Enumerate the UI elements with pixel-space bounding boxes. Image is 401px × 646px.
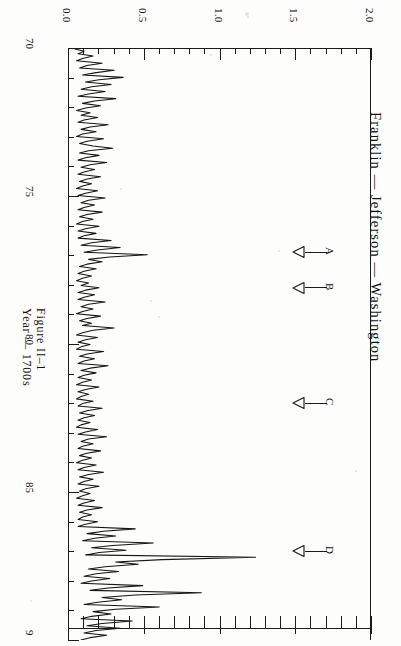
year-axis-tick-label: 75 (24, 186, 36, 197)
value-tick (189, 48, 190, 54)
value-tick (220, 48, 221, 60)
value-axis-tick-label: 1.5 (288, 8, 300, 22)
value-tick-bottom (204, 616, 205, 628)
value-tick (265, 48, 266, 54)
year-tick (68, 137, 74, 138)
value-tick-bottom (83, 616, 84, 628)
series-line (75, 49, 256, 640)
year-axis-tick-label: 9 (24, 630, 36, 636)
value-tick (159, 48, 160, 54)
year-tick (68, 640, 79, 641)
year-tick (68, 285, 74, 286)
value-tick-bottom (114, 616, 115, 628)
scan-speck (120, 188, 122, 190)
arrow-head-icon (292, 396, 305, 410)
value-tick (144, 48, 145, 60)
figure-caption: Figure II–1 (33, 308, 48, 371)
value-tick-bottom (310, 616, 311, 628)
value-tick (250, 48, 251, 54)
value-tick (98, 48, 99, 54)
year-tick (68, 255, 74, 256)
value-tick-bottom (235, 616, 236, 628)
annotation-label-d: D (324, 546, 336, 554)
value-tick-bottom (341, 616, 342, 628)
value-tick-bottom (159, 616, 160, 628)
annotation-arrow-d (292, 544, 327, 558)
value-tick (295, 48, 296, 60)
value-tick (129, 48, 130, 54)
value-tick-bottom (189, 616, 190, 628)
value-tick (356, 48, 357, 54)
value-tick (310, 48, 311, 54)
value-tick (114, 48, 115, 54)
year-tick (68, 551, 74, 552)
chart-title: Franklin — Jefferson — Washington (367, 112, 384, 362)
year-tick (68, 78, 74, 79)
value-tick-bottom (144, 616, 145, 634)
annotation-arrow-a (292, 245, 327, 259)
annotation-label-b: B (324, 283, 336, 290)
year-tick (68, 48, 79, 49)
value-tick-bottom (174, 616, 175, 628)
year-tick (68, 581, 74, 582)
value-tick-bottom (295, 616, 296, 634)
year-tick (68, 166, 74, 167)
value-tick-bottom (356, 616, 357, 628)
arrow-head-icon (292, 544, 305, 558)
value-axis-tick-label: 0.0 (61, 8, 73, 22)
annotation-label-c: C (324, 398, 336, 405)
annotation-label-a: A (324, 247, 336, 255)
year-tick (68, 226, 74, 227)
arrow-head-icon (292, 281, 305, 295)
year-tick (68, 522, 74, 523)
year-tick (68, 196, 79, 197)
value-tick-bottom (280, 616, 281, 628)
value-tick (174, 48, 175, 54)
year-tick (68, 374, 74, 375)
figure-scan-page: 0.00.51.01.52.0 707580859 ABCD Franklin … (0, 0, 401, 646)
value-tick (235, 48, 236, 54)
scan-speck (150, 300, 152, 302)
year-tick (68, 314, 74, 315)
year-tick (68, 433, 74, 434)
scan-speck (30, 600, 32, 602)
scan-speck (278, 250, 280, 252)
value-tick-bottom (98, 616, 99, 628)
year-tick (68, 403, 74, 404)
value-tick-bottom (68, 616, 69, 634)
year-tick (68, 610, 74, 611)
scan-speck (247, 16, 249, 18)
arrow-head-icon (292, 245, 305, 259)
value-tick-bottom (326, 616, 327, 628)
value-tick (326, 48, 327, 54)
year-axis-tick-label: 85 (24, 482, 36, 493)
year-tick (68, 462, 74, 463)
scan-speck (92, 430, 94, 432)
year-tick (68, 107, 74, 108)
year-axis-tick-label: 70 (24, 38, 36, 49)
value-tick (204, 48, 205, 54)
value-axis-tick-label: 2.0 (364, 8, 376, 22)
value-tick-bottom (250, 616, 251, 628)
value-axis-tick-label: 1.0 (213, 8, 225, 22)
value-tick (83, 48, 84, 54)
annotation-arrow-c (292, 396, 327, 410)
value-tick-bottom (129, 616, 130, 628)
value-tick (68, 48, 69, 60)
value-tick (371, 48, 372, 60)
annotation-arrow-b (292, 281, 327, 295)
scan-speck (158, 316, 160, 318)
x-axis-title: Year — 1700s (19, 308, 34, 386)
value-tick-bottom (220, 616, 221, 634)
value-tick (341, 48, 342, 54)
value-tick (280, 48, 281, 54)
year-tick (68, 492, 79, 493)
scan-speck (210, 54, 212, 56)
year-tick (68, 344, 79, 345)
scan-speck (355, 470, 357, 472)
value-axis-tick-label: 0.5 (137, 8, 149, 22)
value-tick-bottom (371, 616, 372, 634)
value-tick-bottom (265, 616, 266, 628)
